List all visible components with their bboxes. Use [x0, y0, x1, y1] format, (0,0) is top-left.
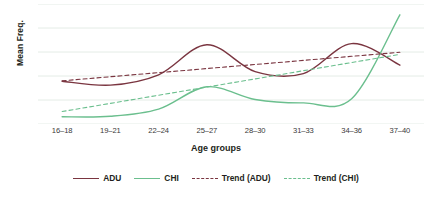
legend-label: Trend (CHI)	[314, 173, 359, 183]
legend-swatch-solid	[134, 178, 160, 179]
x-tick-label: 37–40	[376, 126, 424, 140]
series-line-trend-chi	[62, 54, 400, 111]
legend-swatch-dashed	[284, 178, 310, 179]
legend-item[interactable]: Trend (ADU)	[192, 173, 271, 183]
plot-svg	[38, 4, 424, 124]
x-tick-label: 28–30	[231, 126, 279, 140]
legend-label: Trend (ADU)	[222, 173, 271, 183]
line-chart: Mean Freq. 16–1819–2122–2425–2728–3031–3…	[0, 0, 432, 199]
y-axis-title: Mean Freq.	[15, 3, 25, 83]
legend-swatch-dashed	[192, 178, 218, 179]
x-tick-label: 34–36	[328, 126, 376, 140]
x-axis-tick-labels: 16–1819–2122–2425–2728–3031–3334–3637–40	[38, 126, 424, 140]
series-line-adu	[62, 44, 400, 86]
legend-item[interactable]: Trend (CHI)	[284, 173, 359, 183]
series-line-chi	[62, 15, 400, 117]
x-tick-label: 25–27	[183, 126, 231, 140]
series-layer	[62, 15, 400, 117]
chart-legend: ADUCHITrend (ADU)Trend (CHI)	[0, 168, 432, 188]
x-axis-title: Age groups	[0, 143, 432, 153]
plot-area	[38, 4, 424, 124]
x-tick-label: 22–24	[135, 126, 183, 140]
legend-label: CHI	[164, 173, 178, 183]
legend-item[interactable]: ADU	[73, 173, 121, 183]
x-tick-label: 31–33	[279, 126, 327, 140]
gridlines	[38, 4, 424, 124]
legend-swatch-solid	[73, 178, 99, 179]
x-tick-label: 19–21	[86, 126, 134, 140]
x-tick-label: 16–18	[38, 126, 86, 140]
legend-item[interactable]: CHI	[134, 173, 178, 183]
legend-label: ADU	[103, 173, 121, 183]
